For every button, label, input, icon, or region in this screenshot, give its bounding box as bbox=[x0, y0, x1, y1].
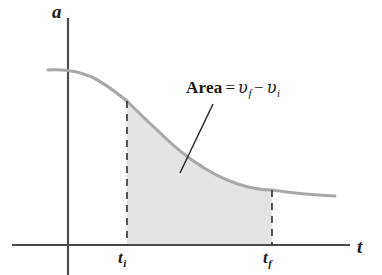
tick-label-t-final: tf bbox=[263, 249, 271, 266]
velocity-final-subscript: f bbox=[248, 87, 251, 99]
y-axis-label: a bbox=[52, 2, 62, 21]
minus-sign: − bbox=[251, 78, 267, 97]
area-annotation: Area=υf−υi bbox=[186, 79, 280, 96]
tick-label-t-initial: ti bbox=[118, 249, 126, 266]
acceleration-time-figure: a t Area=υf−υi ti tf bbox=[0, 0, 382, 275]
area-word: Area bbox=[186, 78, 222, 97]
tick-label-t-initial-subscript: i bbox=[123, 257, 126, 269]
tick-label-t-final-subscript: f bbox=[268, 257, 272, 269]
velocity-final-symbol: υ bbox=[238, 78, 248, 97]
velocity-initial-symbol: υ bbox=[267, 78, 277, 97]
equals-sign: = bbox=[222, 78, 238, 97]
x-axis-label: t bbox=[357, 237, 362, 256]
velocity-initial-subscript: i bbox=[277, 87, 280, 99]
figure-canvas bbox=[0, 0, 382, 275]
